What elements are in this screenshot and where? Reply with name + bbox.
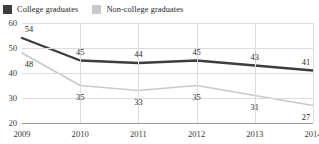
gridline-vertical	[80, 23, 81, 123]
x-axis-tick-label: 2013	[246, 129, 263, 139]
chart-legend: College graduates Non-college graduates	[3, 2, 197, 16]
y-axis-tick-label: 40	[8, 68, 17, 78]
gridline-horizontal	[22, 98, 313, 99]
series-line	[22, 38, 313, 71]
legend-label: Non-college graduates	[106, 5, 183, 14]
gridline-vertical	[313, 23, 314, 123]
legend-swatch-icon	[92, 5, 101, 14]
gridline-vertical	[255, 23, 256, 123]
gridline-horizontal	[22, 73, 313, 74]
legend-item-non-college-graduates[interactable]: Non-college graduates	[92, 5, 183, 14]
y-axis-tick-label: 50	[8, 43, 17, 53]
gridline-vertical	[197, 23, 198, 123]
legend-label: College graduates	[17, 5, 78, 14]
y-axis-tick-label: 60	[8, 18, 17, 28]
legend-swatch-icon	[3, 5, 12, 14]
x-axis-tick-label: 2014	[304, 129, 319, 139]
x-axis-tick-label: 2009	[13, 129, 30, 139]
x-axis-tick-label: 2010	[72, 129, 89, 139]
plot-area: 6050403020200920102011201220132014544544…	[22, 23, 313, 123]
gridline-horizontal	[22, 23, 313, 24]
gridline-horizontal	[22, 123, 313, 124]
gridline-horizontal	[22, 48, 313, 49]
gridline-vertical	[138, 23, 139, 123]
line-chart: College graduates Non-college graduates …	[0, 0, 319, 144]
x-axis-tick-label: 2011	[130, 129, 147, 139]
y-axis-tick-label: 30	[8, 93, 17, 103]
x-axis-tick-label: 2012	[188, 129, 205, 139]
legend-item-college-graduates[interactable]: College graduates	[3, 5, 78, 14]
y-axis-tick-label: 20	[8, 118, 17, 128]
